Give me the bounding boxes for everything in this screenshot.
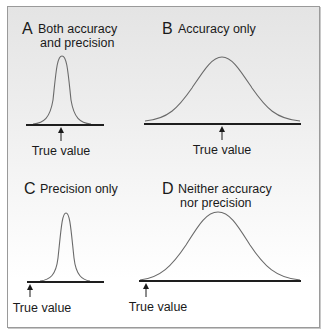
panel-b-letter: B (162, 20, 173, 37)
panel-a-title-line1: Both accuracy (38, 22, 118, 36)
panel-a-curve (33, 56, 91, 124)
panel-a-title-line2: and precision (40, 36, 114, 50)
panel-c-true-value-label: True value (13, 301, 72, 315)
panel-c-curve (40, 213, 90, 281)
panel-a: A Both accuracy and precision True value (22, 20, 118, 158)
panel-a-letter: A (22, 20, 33, 37)
panel-c-letter: C (24, 180, 36, 197)
panel-b-title-line1: Accuracy only (178, 22, 257, 36)
panel-d-title-line1: Neither accuracy (178, 182, 273, 196)
panel-d-title-line2: nor precision (180, 196, 252, 210)
panel-d-curve (140, 212, 300, 280)
panel-c: C Precision only True value (13, 180, 119, 315)
panel-b-curve (145, 57, 300, 121)
panel-d: D Neither accuracy nor precision True va… (129, 180, 301, 314)
panel-c-title-line1: Precision only (40, 182, 119, 196)
panel-b-true-value-label: True value (193, 143, 252, 157)
panel-d-true-value-label: True value (129, 300, 188, 314)
accuracy-precision-diagram: A Both accuracy and precision True value… (0, 0, 325, 333)
panel-d-letter: D (162, 180, 174, 197)
panel-a-true-value-label: True value (32, 144, 91, 158)
panel-b: B Accuracy only True value (144, 20, 301, 157)
